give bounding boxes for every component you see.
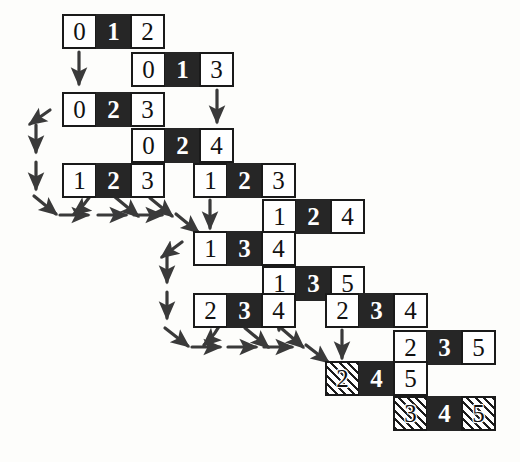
grid-cell-r0-c2[interactable]: 2	[130, 14, 165, 49]
cell-value: 3	[438, 335, 451, 360]
cell-value: 4	[341, 204, 354, 229]
grid-cell-r13-c2[interactable]: 5	[461, 396, 496, 431]
cell-value: 4	[438, 401, 451, 426]
grid-cell-r2-c2[interactable]: 3	[130, 92, 165, 127]
cell-value: 3	[210, 57, 223, 82]
grid-cell-r10-c1[interactable]: 3	[359, 293, 394, 328]
cell-value: 4	[210, 133, 223, 158]
grid-cell-r12-c0[interactable]: 2	[325, 361, 360, 396]
diag-arrow-left-tail	[176, 214, 198, 232]
cell-value: 3	[404, 401, 417, 426]
grid-cell-r10-c0[interactable]: 2	[325, 293, 360, 328]
grid-cell-r3-c0[interactable]: 0	[131, 128, 166, 163]
cell-value: 0	[73, 97, 86, 122]
grid-cell-r1-c1[interactable]: 1	[165, 52, 200, 87]
diag-arrow-left-branch	[115, 197, 138, 216]
grid-cell-r3-c2[interactable]: 4	[199, 128, 234, 163]
cell-value: 5	[472, 335, 485, 360]
grid-cell-r7-c2[interactable]: 4	[261, 231, 296, 266]
grid-cell-r0-c0[interactable]: 0	[62, 14, 97, 49]
cell-value: 1	[73, 168, 86, 193]
cell-value: 2	[204, 298, 217, 323]
cell-value: 5	[472, 401, 485, 426]
grid-cell-r6-c0[interactable]: 1	[262, 199, 297, 234]
cell-value: 2	[307, 204, 320, 229]
cell-value: 2	[107, 168, 120, 193]
grid-cell-r1-c0[interactable]: 0	[131, 52, 166, 87]
cell-value: 1	[204, 168, 217, 193]
grid-cell-r4-c1[interactable]: 2	[96, 163, 131, 198]
cell-value: 3	[238, 298, 251, 323]
cell-value: 4	[272, 236, 285, 261]
diag-arrow-mid-in	[162, 242, 182, 257]
cell-value: 1	[204, 236, 217, 261]
cell-value: 3	[238, 236, 251, 261]
grid-cell-r9-c2[interactable]: 4	[261, 293, 296, 328]
grid-cell-r4-c0[interactable]: 1	[62, 163, 97, 198]
cell-value: 3	[307, 271, 320, 296]
grid-cell-r13-c0[interactable]: 3	[393, 396, 428, 431]
cell-value: 5	[404, 366, 417, 391]
cell-value: 3	[141, 97, 154, 122]
grid-cell-r4-c2[interactable]: 3	[130, 163, 165, 198]
diag-arrow-mid-end	[281, 328, 303, 347]
grid-cell-r10-c2[interactable]: 4	[393, 293, 428, 328]
cell-value: 4	[272, 298, 285, 323]
diag-arrow-mid-branch	[245, 328, 268, 347]
diag-arrow-left-in	[30, 110, 50, 124]
cell-value: 0	[142, 57, 155, 82]
cell-value: 2	[141, 19, 154, 44]
grid-cell-r9-c1[interactable]: 3	[227, 293, 262, 328]
cell-value: 2	[404, 335, 417, 360]
grid-cell-r12-c1[interactable]: 4	[359, 361, 394, 396]
diag-arrow-mid-out	[165, 328, 188, 346]
grid-cell-r3-c1[interactable]: 2	[165, 128, 200, 163]
grid-cell-r5-c0[interactable]: 1	[193, 163, 228, 198]
grid-cell-r11-c0[interactable]: 2	[393, 330, 428, 365]
cell-value: 1	[176, 57, 189, 82]
cell-value: 3	[370, 298, 383, 323]
diag-arrow-left-out	[34, 196, 56, 214]
grid-cell-r2-c0[interactable]: 0	[62, 92, 97, 127]
grid-cell-r12-c2[interactable]: 5	[393, 361, 428, 396]
grid-cell-r5-c2[interactable]: 3	[261, 163, 296, 198]
cell-value: 4	[404, 298, 417, 323]
cell-value: 1	[107, 19, 120, 44]
diag-arrow-left-end	[150, 198, 172, 216]
cell-value: 1	[273, 204, 286, 229]
grid-cell-r7-c1[interactable]: 3	[227, 231, 262, 266]
cell-value: 0	[142, 133, 155, 158]
grid-cell-r9-c0[interactable]: 2	[193, 293, 228, 328]
grid-cell-r0-c1[interactable]: 1	[96, 14, 131, 49]
grid-cell-r5-c1[interactable]: 2	[227, 163, 262, 198]
grid-cell-r11-c1[interactable]: 3	[427, 330, 462, 365]
cell-value: 2	[336, 298, 349, 323]
cell-value: 4	[370, 366, 383, 391]
diag-arrow-mid-tail	[306, 345, 328, 362]
grid-cell-r7-c0[interactable]: 1	[193, 231, 228, 266]
cell-value: 2	[176, 133, 189, 158]
cell-value: 2	[107, 97, 120, 122]
grid-cell-r13-c1[interactable]: 4	[427, 396, 462, 431]
cell-value: 2	[336, 366, 349, 391]
grid-cell-r11-c2[interactable]: 5	[461, 330, 496, 365]
cell-value: 3	[272, 168, 285, 193]
grid-cell-r6-c1[interactable]: 2	[296, 199, 331, 234]
grid-cell-r6-c2[interactable]: 4	[330, 199, 365, 234]
cell-value: 0	[73, 19, 86, 44]
diagram-canvas: 0120130230241231231241341352342342352453…	[0, 0, 520, 462]
grid-cell-r2-c1[interactable]: 2	[96, 92, 131, 127]
grid-cell-r1-c2[interactable]: 3	[199, 52, 234, 87]
cell-value: 2	[238, 168, 251, 193]
cell-value: 3	[141, 168, 154, 193]
